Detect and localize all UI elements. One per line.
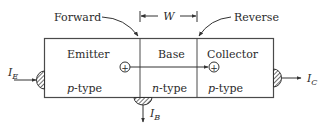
region-base: Base n-type <box>152 48 187 95</box>
emitter-doping: p-type <box>67 82 102 95</box>
forward-arrow-icon <box>102 17 138 36</box>
base-label: Base <box>158 48 185 61</box>
collector-contact-icon <box>274 69 282 87</box>
reverse-arrow-icon <box>199 17 231 36</box>
reverse-label: Reverse <box>234 11 279 24</box>
region-emitter: Emitter p-type <box>67 48 110 95</box>
width-label: W <box>163 10 176 23</box>
forward-bias-annotation: Forward <box>54 11 138 36</box>
svg-text:+: + <box>210 63 218 73</box>
base-doping: n-type <box>152 82 187 95</box>
reverse-bias-annotation: Reverse <box>199 11 279 36</box>
forward-label: Forward <box>54 11 101 24</box>
base-width-dimension: W <box>140 10 197 23</box>
emitter-contact-icon <box>37 71 45 89</box>
collector-current-label: IC <box>306 72 317 87</box>
base-current-label: IB <box>149 107 160 122</box>
svg-text:+: + <box>121 63 129 73</box>
hole-path: + + <box>120 62 219 73</box>
collector-terminal: IC <box>274 69 318 87</box>
bjt-diagram: Emitter p-type Base n-type Collector p-t… <box>0 0 326 130</box>
emitter-label: Emitter <box>67 48 110 61</box>
collector-label: Collector <box>207 48 259 61</box>
base-terminal: IB <box>134 98 160 123</box>
emitter-terminal: IE <box>7 66 45 89</box>
emitter-current-label: IE <box>7 66 18 81</box>
collector-doping: p-type <box>208 82 243 95</box>
base-contact-icon <box>134 98 152 106</box>
